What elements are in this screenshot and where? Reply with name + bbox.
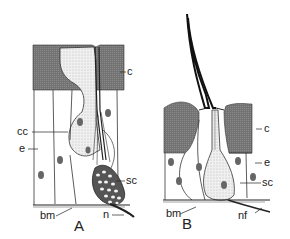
cuticle-b-right [224,104,252,154]
label-a-basement-membrane: bm [40,210,55,221]
label-b-cuticle: c [264,123,270,134]
diagram-canvas [0,0,290,239]
label-b-basement-membrane: bm [166,208,181,219]
label-a-epithelium: e [19,143,25,154]
label-a-conical-cell: cc [17,126,28,137]
label-a-nerve: n [103,209,109,220]
label-b-sensory-cell: sc [262,177,273,188]
label-b-epithelium: e [264,157,270,168]
label-b-nerve-fiber: nf [238,210,247,221]
panel-a-drawing [28,45,134,217]
panel-b-drawing [163,14,270,214]
cuticle-b-left [164,102,199,153]
label-a-sensory-cells: sc [126,175,137,186]
label-a-cuticle: c [127,66,133,77]
hair-shaft [187,14,209,108]
conical-cell-a [60,47,100,156]
panel-b-label: B [182,216,192,231]
panel-a-label: A [74,218,84,233]
